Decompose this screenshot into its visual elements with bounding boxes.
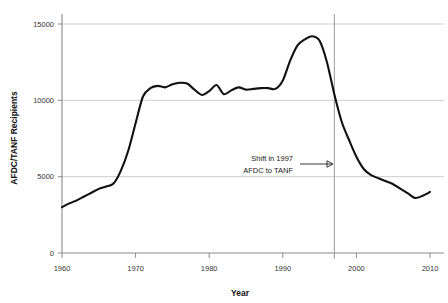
axes — [58, 14, 444, 258]
y-tick-label: 15000 — [33, 20, 54, 29]
x-axis-title: Year — [231, 288, 250, 298]
x-axis-ticks — [62, 253, 430, 258]
x-tick-label: 1960 — [54, 264, 71, 273]
x-tick-label: 2010 — [422, 264, 439, 273]
x-tick-label: 1970 — [127, 264, 144, 273]
chart-container: 050001000015000 196019701980199020002010… — [0, 0, 448, 303]
tick-labels: 050001000015000 196019701980199020002010 — [33, 20, 438, 273]
annotation-arrow-icon — [300, 161, 333, 167]
y-tick-label: 10000 — [33, 96, 54, 105]
annotation-line-2: AFDC to TANF — [243, 166, 293, 175]
y-tick-label: 5000 — [37, 172, 54, 181]
series-line-afdc-tanf-recipients — [62, 36, 430, 207]
line-chart: 050001000015000 196019701980199020002010… — [0, 0, 448, 303]
y-axis-tick-labels: 050001000015000 — [33, 20, 54, 258]
x-tick-label: 1990 — [274, 264, 291, 273]
y-axis-title: AFDC/TANF Recipients — [9, 91, 19, 185]
x-tick-label: 2000 — [348, 264, 365, 273]
y-tick-label: 0 — [50, 249, 54, 258]
x-axis-tick-labels: 196019701980199020002010 — [54, 264, 439, 273]
annotation-line-1: Shift in 1997 — [251, 154, 293, 163]
x-tick-label: 1980 — [201, 264, 218, 273]
annotation-tanf-shift: Shift in 1997 AFDC to TANF — [243, 154, 333, 175]
y-axis-ticks — [58, 24, 62, 253]
